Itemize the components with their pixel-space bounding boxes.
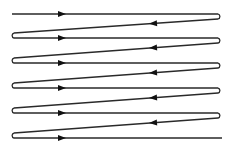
return-arrow-icon bbox=[149, 20, 157, 27]
scan-path bbox=[12, 14, 222, 138]
forward-arrow-icon bbox=[58, 35, 66, 41]
forward-arrow-icon bbox=[58, 135, 66, 141]
forward-arrow-icon bbox=[58, 11, 66, 17]
scan-path-svg bbox=[0, 0, 237, 148]
return-arrow-icon bbox=[149, 44, 157, 51]
forward-arrow-icon bbox=[58, 60, 66, 66]
return-arrow-icon bbox=[149, 119, 157, 126]
raster-scan-diagram bbox=[0, 0, 237, 148]
return-arrow-icon bbox=[149, 69, 157, 76]
return-arrow-icon bbox=[149, 94, 157, 101]
forward-arrow-icon bbox=[58, 85, 66, 91]
forward-arrow-icon bbox=[58, 110, 66, 116]
scan-path-lines bbox=[12, 14, 222, 138]
